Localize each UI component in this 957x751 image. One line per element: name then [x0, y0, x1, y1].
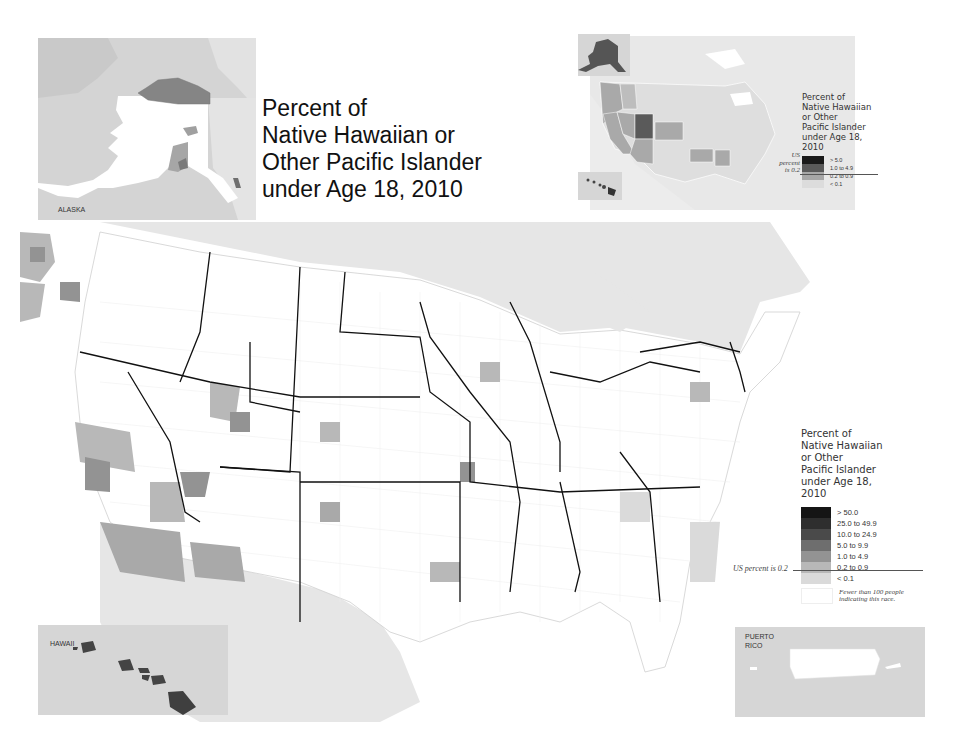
- county-legend: Percent of Native Hawaiian or Other Paci…: [801, 428, 951, 605]
- legend-swatch: [801, 588, 833, 604]
- legend-label: 1.0 to 4.9: [837, 552, 868, 561]
- alaska-mini-map: [578, 34, 630, 76]
- state-legend-label: 1.0 to 4.9: [830, 165, 853, 171]
- legend-label: 5.0 to 9.9: [837, 541, 868, 550]
- map-title: Percent of Native Hawaiian or Other Paci…: [262, 95, 482, 203]
- legend-label: 10.0 to 24.9: [837, 530, 877, 539]
- state-legend-title-1: Percent of: [802, 92, 912, 102]
- legend-swatch: [801, 573, 831, 584]
- legend-row: > 50.0: [801, 507, 951, 518]
- legend-swatch: [801, 507, 831, 518]
- hawaii-inset: HAWAII: [38, 625, 228, 715]
- state-legend-label: < 0.1: [830, 181, 842, 187]
- legend-label-line: indicating this race.: [839, 596, 904, 604]
- state-legend-swatch: [802, 164, 824, 172]
- legend-swatch: [801, 529, 831, 540]
- legend-title-4: Pacific Islander: [801, 464, 951, 476]
- state-us-percent-note: US percent is 0.2: [770, 152, 800, 175]
- alaska-inset: ALASKA: [38, 38, 256, 220]
- legend-title-1: Percent of: [801, 428, 951, 440]
- legend-row: Fewer than 100 people indicating this ra…: [801, 587, 951, 605]
- legend-row: 5.0 to 9.9: [801, 540, 951, 551]
- state-legend-title-3: or Other: [802, 112, 912, 122]
- hawaii-mini-map: [578, 172, 622, 200]
- us-note-line: is 0.2: [770, 167, 800, 175]
- legend-row: 0.2 to 0.9: [801, 562, 951, 573]
- state-legend-title-6: 2010: [802, 142, 912, 152]
- us-percent-note: US percent is 0.2: [733, 564, 788, 573]
- hawaii-mini-inset: [578, 172, 622, 200]
- legend-title-3: or Other: [801, 452, 951, 464]
- state-legend-swatch: [802, 180, 824, 188]
- alaska-mini-inset: [578, 34, 630, 76]
- title-line-4: under Age 18, 2010: [262, 176, 482, 203]
- puerto-rico-map: PUERTO RICO: [735, 627, 925, 717]
- puerto-rico-label-1: PUERTO: [745, 633, 774, 640]
- state-us-percent-line: [800, 174, 878, 175]
- state-legend-title-5: under Age 18,: [802, 132, 912, 142]
- hawaii-label: HAWAII: [50, 640, 74, 647]
- legend-title-5: under Age 18,: [801, 476, 951, 488]
- state-legend-row: 1.0 to 4.9: [802, 164, 912, 172]
- legend-title-6: 2010: [801, 488, 951, 500]
- state-legend-row: < 0.1: [802, 180, 912, 188]
- legend-row: 1.0 to 4.9: [801, 551, 951, 562]
- legend-label: < 0.1: [837, 574, 854, 583]
- hawaii-map: HAWAII: [38, 625, 228, 715]
- title-line-2: Native Hawaiian or: [262, 122, 482, 149]
- state-legend-title-4: Pacific Islander: [802, 122, 912, 132]
- legend-title-2: Native Hawaiian: [801, 440, 951, 452]
- legend-swatch: [801, 551, 831, 562]
- legend-row: 10.0 to 24.9: [801, 529, 951, 540]
- legend-swatch: [801, 518, 831, 529]
- puerto-rico-inset: PUERTO RICO: [735, 627, 925, 717]
- legend-row: 25.0 to 49.9: [801, 518, 951, 529]
- state-legend-title-2: Native Hawaiian: [802, 102, 912, 112]
- title-line-1: Percent of: [262, 95, 482, 122]
- state-legend-label: > 5.0: [830, 157, 842, 163]
- legend-label: Fewer than 100 people indicating this ra…: [839, 589, 904, 604]
- legend-swatch: [801, 540, 831, 551]
- alaska-label: ALASKA: [58, 206, 86, 213]
- state-legend-row: > 5.0: [802, 156, 912, 164]
- title-line-3: Other Pacific Islander: [262, 149, 482, 176]
- puerto-rico-label-2: RICO: [745, 642, 763, 649]
- us-percent-line: [793, 570, 923, 571]
- legend-swatch: [801, 562, 831, 573]
- legend-row: < 0.1: [801, 573, 951, 584]
- legend-label: > 50.0: [837, 508, 858, 517]
- legend-label: 25.0 to 49.9: [837, 519, 877, 528]
- state-legend-swatch: [802, 156, 824, 164]
- alaska-map: ALASKA: [38, 38, 256, 220]
